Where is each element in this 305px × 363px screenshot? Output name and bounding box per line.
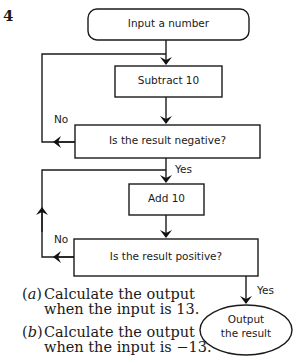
edge-label-yes-negative: Yes: [175, 163, 192, 175]
question-a: (a)Calculate the output when the input i…: [22, 287, 199, 317]
question-a-line1: Calculate the output: [44, 286, 195, 302]
question-b-tag: (b): [22, 325, 44, 340]
question-b-line1: Calculate the output: [44, 324, 195, 340]
start-node-label: Input a number: [88, 17, 249, 29]
add-node-label: Add 10: [129, 192, 204, 204]
question-b-line2: when the input is −13.: [22, 340, 212, 355]
subtract-node-label: Subtract 10: [115, 74, 222, 86]
edge-label-yes-positive: Yes: [257, 284, 274, 296]
positive-check-node-label: Is the result positive?: [74, 250, 258, 262]
edge-label-no-negative: No: [54, 113, 68, 125]
output-node-label-line1: Output: [200, 313, 292, 325]
question-a-line2: when the input is 13.: [22, 302, 199, 317]
edge-label-no-positive: No: [54, 233, 68, 245]
negative-check-node-label: Is the result negative?: [75, 134, 260, 146]
question-a-tag: (a): [22, 287, 44, 302]
question-b: (b)Calculate the output when the input i…: [22, 325, 212, 355]
question-number: 4: [3, 7, 13, 25]
flowchart-figure: 4 Input a number Subtract 10 Is the resu…: [0, 0, 305, 363]
output-node-label-line2: the result: [200, 327, 292, 339]
